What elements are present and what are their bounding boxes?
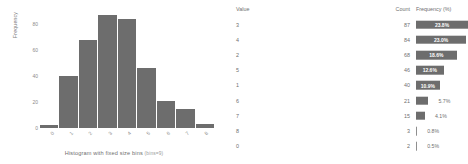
y-axis-tick-label: 40 xyxy=(32,73,38,79)
table-body: 38723.8%48423.0%26818.6%54612.6%14010.9%… xyxy=(232,17,468,154)
table-header-row: Value Count Frequency (%) xyxy=(232,0,468,17)
cell-count: 84 xyxy=(384,37,410,43)
cell-count: 46 xyxy=(384,67,410,73)
y-axis-tick-label: 60 xyxy=(32,47,38,53)
cell-count: 15 xyxy=(384,113,410,119)
y-axis-tick-label: 20 xyxy=(32,99,38,105)
y-axis-label: Frequency xyxy=(12,0,18,52)
cell-value: 1 xyxy=(236,82,239,88)
x-axis-tick: 4 xyxy=(117,131,136,145)
histogram-bar xyxy=(196,124,214,128)
table-row: 6215.7% xyxy=(232,93,468,108)
table-row: 830.8% xyxy=(232,123,468,138)
x-axis-title: Histogram with fixed size bins (bins=9) xyxy=(0,150,228,156)
column-header-frequency: Frequency (%) xyxy=(416,6,451,12)
frequency-bar-label: 10.9% xyxy=(416,81,440,90)
x-axis-tick: 2 xyxy=(79,131,98,145)
frequency-bar xyxy=(416,111,425,120)
x-axis-tick-label: 8 xyxy=(203,130,209,136)
cell-value: 0 xyxy=(236,143,239,149)
frequency-bar: 23.0% xyxy=(416,35,466,44)
histogram-bar xyxy=(40,125,59,128)
histogram-bar xyxy=(137,68,156,128)
frequency-bar-label: 23.8% xyxy=(416,20,468,29)
x-axis-tick-label: 7 xyxy=(184,130,190,136)
frequency-table: Value Count Frequency (%) 38723.8%48423.… xyxy=(232,0,468,164)
cell-count: 87 xyxy=(384,22,410,28)
table-row: 38723.8% xyxy=(232,17,468,32)
table-row: 26818.6% xyxy=(232,47,468,62)
x-axis-title-text: Histogram with fixed size bins xyxy=(65,150,143,156)
histogram-chart: Frequency 020406080 012345678 Histogram … xyxy=(0,0,228,164)
cell-count: 40 xyxy=(384,82,410,88)
cell-value: 4 xyxy=(236,37,239,43)
cell-count: 68 xyxy=(384,52,410,58)
cell-value: 3 xyxy=(236,22,239,28)
frequency-bar-label: 0.5% xyxy=(427,143,439,149)
histogram-bars xyxy=(40,11,214,128)
table-row: 54612.6% xyxy=(232,63,468,78)
table-row: 7154.1% xyxy=(232,108,468,123)
x-axis-tick-label: 0 xyxy=(49,130,55,136)
x-axis-tick-label: 2 xyxy=(87,130,93,136)
histogram-bar xyxy=(79,40,98,128)
frequency-bar-label: 12.6% xyxy=(416,66,444,75)
frequency-bar-label: 23.0% xyxy=(416,35,466,44)
histogram-bar xyxy=(98,15,117,128)
frequency-bar: 23.8% xyxy=(416,20,468,29)
table-row: 48423.0% xyxy=(232,32,468,47)
frequency-bar: 18.6% xyxy=(416,51,457,60)
cell-value: 8 xyxy=(236,128,239,134)
histogram-bar xyxy=(59,76,78,128)
frequency-bar xyxy=(416,127,417,136)
x-axis-tick: 6 xyxy=(156,131,175,145)
histogram-bar xyxy=(176,109,195,128)
cell-value: 7 xyxy=(236,113,239,119)
y-axis-tick-label: 0 xyxy=(35,125,38,131)
frequency-bar: 12.6% xyxy=(416,66,444,75)
x-axis-tick: 3 xyxy=(98,131,117,145)
x-axis-tick-label: 1 xyxy=(68,130,74,136)
table-row: 020.5% xyxy=(232,139,468,154)
column-header-value: Value xyxy=(236,6,249,12)
table-row: 14010.9% xyxy=(232,78,468,93)
x-axis-tick: 8 xyxy=(195,131,214,145)
frequency-bar-label: 4.1% xyxy=(435,113,447,119)
frequency-bar xyxy=(416,142,417,151)
x-axis-title-bins: (bins=9) xyxy=(145,151,164,156)
cell-value: 6 xyxy=(236,98,239,104)
y-axis-tick-label: 80 xyxy=(32,21,38,27)
x-axis-tick: 0 xyxy=(40,131,59,145)
plot-area xyxy=(40,11,214,128)
x-axis-tick-label: 5 xyxy=(145,130,151,136)
cell-count: 3 xyxy=(384,128,410,134)
cell-count: 2 xyxy=(384,143,410,149)
column-header-count: Count xyxy=(384,6,410,12)
frequency-bar-label: 5.7% xyxy=(438,98,450,104)
x-axis-ticks: 012345678 xyxy=(40,131,214,145)
frequency-bar-label: 18.6% xyxy=(416,51,457,60)
histogram-frequency-report: Frequency 020406080 012345678 Histogram … xyxy=(0,0,468,164)
frequency-bar xyxy=(416,96,428,105)
histogram-bar xyxy=(157,101,176,128)
cell-count: 21 xyxy=(384,98,410,104)
frequency-bar-label: 0.8% xyxy=(427,128,439,134)
x-axis-tick-label: 4 xyxy=(126,130,132,136)
x-axis-tick: 7 xyxy=(175,131,194,145)
x-axis-tick: 5 xyxy=(137,131,156,145)
x-axis-tick-label: 3 xyxy=(107,130,113,136)
histogram-bar xyxy=(118,19,137,128)
y-axis-ticks: 020406080 xyxy=(20,10,38,128)
x-axis-tick: 1 xyxy=(59,131,78,145)
cell-value: 2 xyxy=(236,52,239,58)
cell-value: 5 xyxy=(236,67,239,73)
x-axis-tick-label: 6 xyxy=(165,130,171,136)
frequency-bar: 10.9% xyxy=(416,81,440,90)
